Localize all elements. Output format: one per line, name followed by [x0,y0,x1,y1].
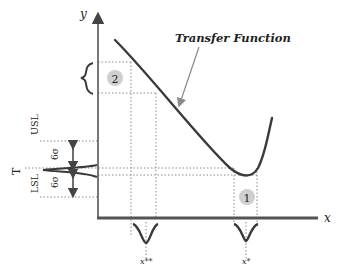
lsl-label: LSL [29,173,40,193]
svg-text:1: 1 [244,192,251,205]
output-spread-bracket-icon [81,63,93,94]
x-axis-label: x [324,211,331,225]
transfer-function-diagram: y x Transfer Function 2 1 USL LSL 6σ 6σ … [0,0,339,272]
transfer-function-title: Transfer Function [175,31,291,45]
region-1-marker: 1 [239,189,255,205]
x-star-label: x* [242,257,251,266]
transfer-function-curve [115,40,272,176]
sigma-lower-label: 6σ [50,176,60,188]
x-double-star-label: x** [140,257,153,266]
sigma-upper-label: 6σ [50,148,60,160]
svg-text:2: 2 [112,73,119,86]
usl-label: USL [29,113,40,135]
y-axis-label: y [79,7,87,21]
output-distribution-at-target [43,165,97,177]
title-pointer-arrow [180,47,199,103]
region-2-marker: 2 [107,70,123,86]
target-label: T [10,167,23,175]
